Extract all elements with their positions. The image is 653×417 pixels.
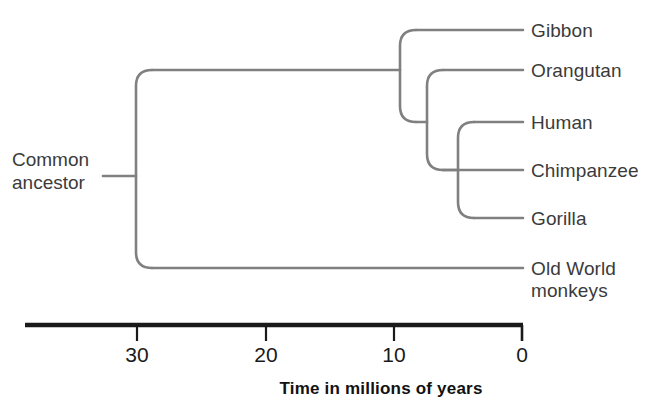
- leaf-label-gorilla: Gorilla: [531, 208, 587, 229]
- axis-tick-label-10: 10: [382, 343, 405, 367]
- branch-root-vertical: [136, 70, 152, 268]
- leaf-label-orangutan: Orangutan: [531, 60, 622, 81]
- branch-great-apes-node-vertical: [427, 70, 443, 170]
- axis-tick-label-20: 20: [254, 343, 277, 367]
- common-ancestor-label: Common ancestor: [12, 148, 104, 194]
- phylogenetic-tree-figure: Common ancestor Gibbon Orangutan Human C…: [0, 0, 653, 417]
- time-axis: [25, 325, 523, 341]
- branch-apes-node-vertical: [400, 30, 416, 122]
- axis-title: Time in millions of years: [279, 379, 482, 399]
- leaf-label-old-world-monkeys: Old World monkeys: [531, 258, 616, 302]
- leaf-label-gibbon: Gibbon: [531, 20, 593, 41]
- leaf-label-chimpanzee: Chimpanzee: [531, 160, 639, 181]
- leaf-label-human: Human: [531, 112, 593, 133]
- axis-tick-label-30: 30: [125, 343, 148, 367]
- axis-tick-label-0: 0: [516, 343, 528, 367]
